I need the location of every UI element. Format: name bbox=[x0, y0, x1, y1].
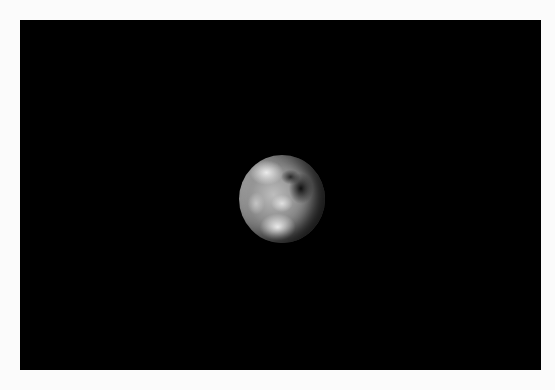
space-photo bbox=[20, 20, 541, 370]
earth-globe bbox=[239, 155, 325, 243]
